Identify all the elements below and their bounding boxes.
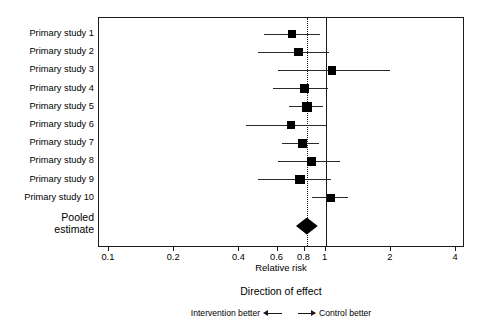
study-label: Primary study 6	[29, 119, 94, 129]
axis-tick-label: 0.8	[297, 252, 310, 262]
pooled-estimate-diamond	[296, 218, 318, 235]
axis-tick	[238, 247, 239, 251]
plot-area	[98, 17, 464, 247]
axis-tick-label: 1	[322, 252, 327, 262]
arrow-left-icon	[260, 308, 286, 318]
axis-tick	[173, 247, 174, 251]
study-label: Primary study 7	[29, 137, 94, 147]
point-estimate-marker	[298, 139, 307, 148]
study-label: Primary study 8	[29, 155, 94, 165]
point-estimate-marker	[307, 157, 315, 165]
study-label: Primary study 9	[29, 174, 94, 184]
plot-inner	[99, 18, 463, 246]
axis-tick	[108, 247, 109, 251]
axis-tick	[277, 247, 278, 251]
axis-tick-label: 0.1	[101, 252, 114, 262]
axis-tick-label: 0.2	[167, 252, 180, 262]
axis-tick	[325, 247, 326, 251]
arrow-right-icon	[293, 308, 319, 318]
point-estimate-marker	[300, 84, 309, 93]
point-estimate-marker	[328, 66, 336, 74]
point-estimate-marker	[295, 175, 305, 185]
point-estimate-marker	[287, 121, 295, 129]
forest-plot-figure: Primary study 1Primary study 2Primary st…	[0, 0, 486, 330]
pooled-estimate-label: Pooledestimate	[54, 212, 94, 235]
study-label: Primary study 3	[29, 64, 94, 74]
axis-tick-label: 4	[452, 252, 457, 262]
axis-tick	[390, 247, 391, 251]
axis-tick-label: 0.6	[270, 252, 283, 262]
direction-legend: Intervention better Control better	[98, 305, 464, 321]
point-estimate-marker	[288, 30, 296, 38]
axis-tick-label: 2	[387, 252, 392, 262]
axis-tick-label: 0.4	[232, 252, 245, 262]
point-estimate-marker	[327, 194, 336, 203]
axis-tick	[304, 247, 305, 251]
study-label: Primary study 4	[29, 83, 94, 93]
pooled-estimate-label-line1: Pooled	[54, 212, 94, 224]
direction-of-effect-title: Direction of effect	[98, 285, 464, 297]
study-label-column: Primary study 1Primary study 2Primary st…	[0, 17, 94, 247]
pooled-estimate-label-line2: estimate	[54, 224, 94, 236]
x-axis-title: Relative risk	[98, 262, 464, 273]
study-label: Primary study 5	[29, 101, 94, 111]
control-better-label: Control better	[319, 308, 371, 318]
study-label: Primary study 2	[29, 46, 94, 56]
axis-tick	[455, 247, 456, 251]
point-estimate-marker	[302, 102, 313, 113]
point-estimate-marker	[294, 48, 303, 57]
study-label: Primary study 10	[24, 192, 94, 202]
study-label: Primary study 1	[29, 28, 94, 38]
intervention-better-label: Intervention better	[191, 308, 260, 318]
